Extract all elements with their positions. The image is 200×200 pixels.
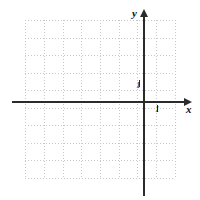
x-axis-label: x: [186, 104, 192, 115]
grid-line-horizontal: [25, 160, 175, 161]
grid-line-vertical: [100, 20, 101, 178]
grid-line-horizontal: [25, 90, 175, 91]
grid-line-vertical: [44, 20, 45, 178]
grid-line-horizontal: [25, 125, 175, 126]
grid-line-vertical: [81, 20, 82, 178]
grid-line-vertical: [137, 20, 138, 178]
grid-line-horizontal: [25, 73, 175, 74]
grid-line-vertical: [25, 20, 26, 178]
y-axis-label: y: [132, 8, 137, 19]
grid-area: [25, 20, 175, 178]
coordinate-plane-figure: 1 1 y x: [0, 0, 200, 200]
grid-line-horizontal: [25, 38, 175, 39]
grid-line-horizontal: [25, 55, 175, 56]
x-axis-line: [12, 101, 185, 103]
grid-line-horizontal: [25, 108, 175, 109]
grid-line-vertical: [119, 20, 120, 178]
x-axis-tick-label-1: 1: [155, 105, 160, 114]
y-axis-tick-label-1: 1: [136, 81, 141, 90]
grid-line-horizontal: [25, 20, 175, 21]
grid-line-horizontal: [25, 178, 175, 179]
y-axis-arrowhead-icon: [140, 9, 148, 17]
y-axis-line: [143, 17, 145, 196]
grid-line-vertical: [63, 20, 64, 178]
grid-line-horizontal: [25, 143, 175, 144]
grid-line-vertical: [156, 20, 157, 178]
grid-line-vertical: [175, 20, 176, 178]
